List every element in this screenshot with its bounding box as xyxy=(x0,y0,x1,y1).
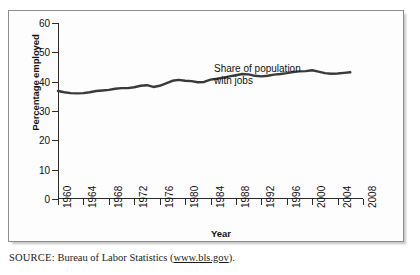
x-axis-title: Year xyxy=(9,228,403,239)
x-tick-label: 2008 xyxy=(367,186,378,208)
y-tick-label: 40 xyxy=(39,76,50,87)
source-note-label: SOURCE: xyxy=(9,252,55,263)
y-tick-label: 50 xyxy=(39,47,50,58)
source-note-suffix: ). xyxy=(229,252,235,263)
x-tick xyxy=(236,199,237,205)
source-note-text: Bureau of Labor Statistics ( xyxy=(55,252,174,263)
y-tick-label: 10 xyxy=(39,164,50,175)
series-annotation-label: Share of population with jobs xyxy=(214,63,301,87)
source-url-link[interactable]: www.bls.gov xyxy=(173,252,228,263)
x-tick xyxy=(211,199,212,205)
x-tick xyxy=(287,199,288,205)
y-tick-label: 20 xyxy=(39,135,50,146)
x-tick xyxy=(134,199,135,205)
x-tick xyxy=(261,199,262,205)
data-series-line xyxy=(58,23,363,199)
y-tick-label: 0 xyxy=(44,194,50,205)
plot-area: 0102030405060 19601964196819721976198019… xyxy=(58,23,363,199)
chart-figure-frame: Percentage employed 0102030405060 196019… xyxy=(8,10,404,242)
x-tick xyxy=(83,199,84,205)
source-note: SOURCE: Bureau of Labor Statistics (www.… xyxy=(9,252,235,263)
y-tick-label: 30 xyxy=(39,106,50,117)
y-tick-label: 60 xyxy=(39,18,50,29)
x-tick xyxy=(185,199,186,205)
x-tick xyxy=(312,199,313,205)
x-tick xyxy=(109,199,110,205)
x-tick xyxy=(58,199,59,205)
x-tick xyxy=(160,199,161,205)
x-tick xyxy=(338,199,339,205)
x-tick xyxy=(363,199,364,205)
